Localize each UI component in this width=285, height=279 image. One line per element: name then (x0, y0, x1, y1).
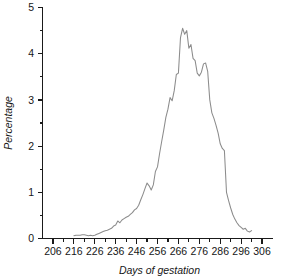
y-tick-label: 3 (28, 94, 34, 106)
x-tick-label: 256 (149, 245, 167, 257)
y-axis-title: Percentage (2, 96, 14, 150)
x-tick-label: 306 (253, 245, 271, 257)
gestation-percentage-chart: 012345 206216226236246256266276286296306… (0, 0, 285, 279)
y-tick-label: 0 (28, 232, 34, 244)
x-tick-label: 276 (191, 245, 209, 257)
x-tick-label: 266 (170, 245, 188, 257)
x-axis-title: Days of gestation (119, 264, 200, 276)
chart-canvas: 012345 206216226236246256266276286296306… (0, 0, 285, 279)
y-tick-label: 5 (28, 1, 34, 13)
percentage-series-line (74, 28, 252, 235)
x-tick-label: 286 (211, 245, 229, 257)
x-tick-label: 246 (128, 245, 146, 257)
x-tick-label: 226 (86, 245, 104, 257)
x-tick-label: 216 (65, 245, 83, 257)
x-axis-tick-labels: 206216226236246256266276286296306 (44, 245, 271, 257)
x-tick-label: 206 (44, 245, 62, 257)
x-tick-label: 236 (107, 245, 125, 257)
y-tick-label: 1 (28, 186, 34, 198)
y-axis-tick-labels: 012345 (28, 1, 34, 244)
y-tick-label: 4 (28, 47, 34, 59)
x-tick-label: 296 (232, 245, 250, 257)
y-tick-label: 2 (28, 140, 34, 152)
